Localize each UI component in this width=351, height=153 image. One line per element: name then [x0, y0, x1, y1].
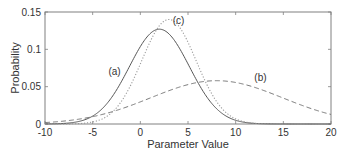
x-tick-label: 10: [230, 127, 242, 138]
y-tick-label: 0: [35, 119, 41, 130]
x-tick-label: 5: [185, 127, 191, 138]
series-annotation: (c): [173, 15, 185, 26]
x-axis-label: Parameter Value: [147, 138, 229, 150]
series-line-a: [45, 29, 331, 124]
y-tick-label: 0.05: [22, 81, 42, 92]
series-line-c: [45, 19, 331, 124]
y-axis-label: Probability: [9, 42, 21, 94]
series-annotation: (b): [254, 72, 266, 83]
series-line-b: [45, 81, 331, 123]
plot-annotations: (a)(b)(c): [108, 15, 266, 83]
series-annotation: (a): [108, 66, 120, 77]
x-tick-label: 0: [138, 127, 144, 138]
probability-chart: -10-50510152000.050.10.15 (a)(b)(c) Para…: [0, 0, 351, 153]
plot-series: [45, 19, 331, 124]
x-tick-label: -5: [88, 127, 97, 138]
x-tick-label: 20: [325, 127, 337, 138]
plot-axes: -10-50510152000.050.10.15: [22, 7, 337, 139]
y-tick-label: 0.15: [22, 7, 42, 18]
x-tick-label: 15: [278, 127, 290, 138]
y-tick-label: 0.1: [27, 44, 41, 55]
plot-frame: [45, 12, 331, 124]
